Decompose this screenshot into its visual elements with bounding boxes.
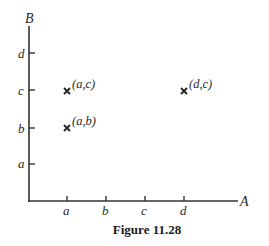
x-marker-icon (64, 125, 70, 131)
x-tick-label-b: b (102, 203, 109, 218)
x-axis-label: A (239, 194, 249, 209)
x-tick-label-a: a (63, 203, 70, 218)
point-label: (a,b) (72, 114, 96, 128)
x-marker-icon (181, 88, 187, 94)
y-tick-label-c: c (18, 83, 24, 98)
y-tick-label-d: d (18, 46, 25, 61)
y-axis-label: B (25, 11, 34, 26)
y-tick-label-a: a (18, 156, 25, 171)
figure-caption: Figure 11.28 (113, 222, 182, 237)
point-label: (a,c) (72, 77, 95, 91)
point-a-c: (a,c) (64, 77, 95, 94)
point-a-b: (a,b) (64, 114, 96, 131)
x-tick-label-c: c (141, 203, 147, 218)
point-label: (d,c) (189, 77, 212, 91)
y-tick-label-b: b (18, 121, 25, 136)
point-d-c: (d,c) (181, 77, 212, 94)
x-marker-icon (64, 88, 70, 94)
x-tick-label-d: d (180, 203, 187, 218)
cartesian-product-diagram: B A d c b a a b c d (a,c) (a,b) (d,c) Fi… (0, 0, 269, 246)
y-ticks (29, 53, 35, 164)
